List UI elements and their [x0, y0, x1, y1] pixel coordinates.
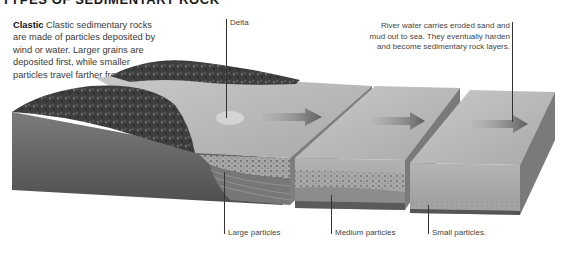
river-label-line-2: mud out to sea. They eventually harden — [370, 32, 510, 43]
river-leader-line — [512, 22, 513, 122]
river-label-line-1: River water carries eroded sand and — [370, 21, 510, 32]
large-leader-line — [224, 172, 225, 234]
large-particles-label: Large particles — [228, 228, 280, 239]
small-particles-label: Small particles. — [432, 228, 486, 239]
medium-leader-line — [331, 195, 332, 234]
river-label: River water carries eroded sand and mud … — [370, 21, 510, 53]
delta-leader-line — [226, 19, 227, 118]
delta-label: Delta — [230, 18, 249, 29]
river-label-line-3: and become sedimentary rock layers. — [370, 42, 510, 53]
medium-particles-label: Medium particles — [335, 228, 395, 239]
small-leader-line — [428, 205, 429, 234]
